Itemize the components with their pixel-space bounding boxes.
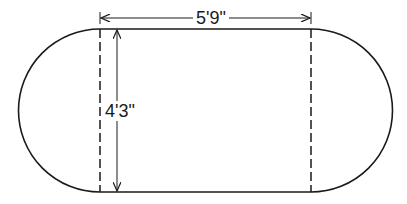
diagram-canvas: 5'9" 4'3" (0, 0, 407, 204)
width-dimension-label: 5'9" (193, 9, 229, 27)
stadium-outline (18, 29, 392, 192)
height-dimension-label: 4'3" (104, 101, 136, 121)
stadium-shape-drawing (0, 0, 407, 204)
